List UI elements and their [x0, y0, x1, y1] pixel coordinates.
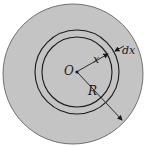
label-r: R [87, 84, 97, 98]
label-dx: dx [122, 44, 136, 57]
label-center-o: O [64, 64, 74, 78]
label-x: x [93, 53, 100, 66]
disk-diagram: O x dx R [0, 0, 144, 146]
